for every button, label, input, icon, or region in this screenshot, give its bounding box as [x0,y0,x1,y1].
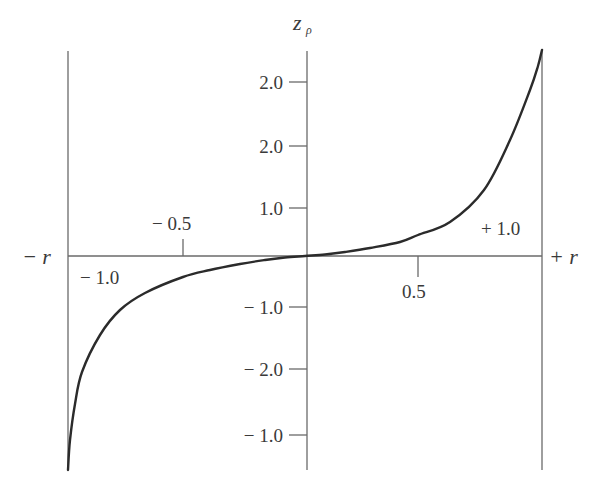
corner-label-lower-left: − 1.0 [80,267,119,288]
y-tick-label-4: − 1.0 [244,297,283,318]
y-tick-label-6: − 1.0 [244,425,283,446]
x-tick-label-pos-0.5: 0.5 [402,281,426,302]
z-curve [68,50,542,470]
y-tick-label-3: 1.0 [259,198,283,219]
y-axis-label-subscript: ρ [305,23,312,37]
y-tick-label-1: 2.0 [259,72,283,93]
x-axis-label-left: − r [22,244,51,269]
x-tick-label-neg-0.5: − 0.5 [152,213,191,234]
fisher-z-chart: z ρ − r + r − 0.5 0.5 − 1.0 + 1.0 2.0 2.… [0,0,600,489]
y-tick-label-2: 2.0 [259,136,283,157]
x-axis-label-right: + r [549,244,578,269]
y-tick-label-5: − 2.0 [244,359,283,380]
corner-label-upper-right: + 1.0 [481,218,520,239]
y-axis-label: z [292,10,302,35]
y-ticks [289,82,307,435]
